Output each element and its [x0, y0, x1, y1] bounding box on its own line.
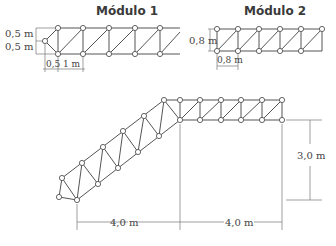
truss-diagram: Módulo 1 0,5 m 0,5 — [0, 0, 336, 246]
module2-dim-width: 0,8 m — [217, 55, 243, 65]
structure-dim-horizontal-right: 4,0 m — [225, 217, 254, 228]
module2-title: Módulo 2 — [244, 4, 306, 18]
module2-truss — [214, 26, 324, 53]
module2-dim-height: 0,8 m — [189, 35, 218, 46]
structure-dimensions — [77, 120, 322, 230]
module1-dim-w-panel: 1 m — [63, 59, 81, 69]
module1-truss — [42, 25, 180, 56]
structure-dim-vertical: 3,0 m — [297, 150, 326, 161]
structure-dim-horizontal-left: 4,0 m — [110, 217, 139, 228]
module1-dim-h-top: 0,5 m — [5, 28, 34, 39]
module1-dim-h-bottom: 0,5 m — [5, 41, 34, 52]
structure-truss — [56, 97, 284, 202]
module1-dim-w-first: 0,5 — [46, 59, 61, 69]
module1-title: Módulo 1 — [96, 4, 158, 18]
